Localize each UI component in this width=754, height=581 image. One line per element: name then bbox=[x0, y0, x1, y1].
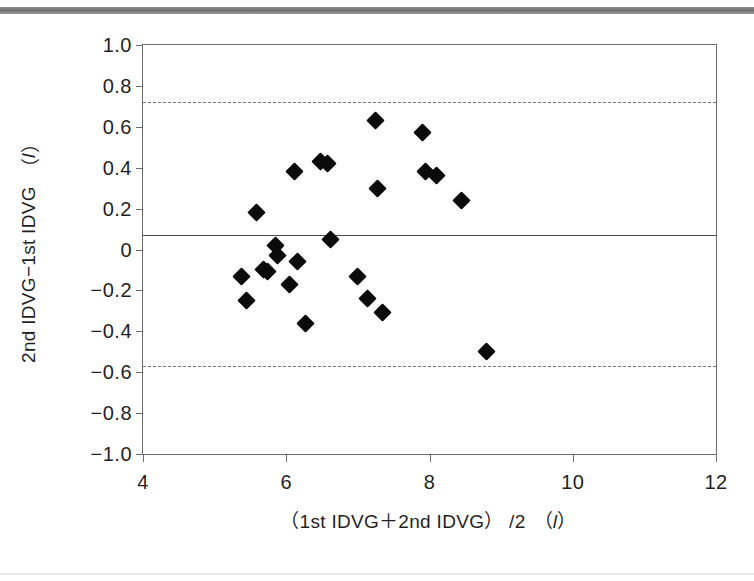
x-axis-tick bbox=[430, 454, 431, 462]
data-point bbox=[477, 343, 495, 361]
y-axis-tick-label: 0.4 bbox=[103, 156, 132, 179]
x-axis-title: （1st IDVG＋2nd IDVG） /2（l） bbox=[142, 506, 715, 533]
y-axis-tick bbox=[136, 168, 143, 169]
y-axis-tick bbox=[136, 413, 143, 414]
y-axis-title-main: 2nd IDVG−1st IDVG bbox=[18, 186, 40, 363]
y-axis-unit: l bbox=[18, 153, 40, 158]
y-axis-tick bbox=[136, 454, 143, 455]
x-axis-unit-open-paren: （ bbox=[534, 511, 553, 532]
data-point bbox=[281, 275, 299, 293]
y-axis-tick bbox=[136, 290, 143, 291]
data-point bbox=[367, 111, 385, 129]
reference-line-upper-limit-of-agreement bbox=[143, 102, 716, 103]
data-point bbox=[296, 314, 314, 332]
y-axis-tick-label: 0.6 bbox=[103, 115, 132, 138]
y-axis-tick-label: −0.4 bbox=[91, 320, 132, 343]
x-axis-tick bbox=[573, 454, 574, 462]
x-axis-unit-close-paren: ） bbox=[557, 511, 576, 532]
data-point bbox=[369, 179, 387, 197]
y-axis-tick bbox=[136, 209, 143, 210]
data-point bbox=[238, 291, 256, 309]
x-axis-tick bbox=[143, 454, 144, 462]
data-point bbox=[233, 267, 251, 285]
data-point bbox=[289, 253, 307, 271]
data-point bbox=[321, 230, 339, 248]
x-axis-tick-label: 4 bbox=[137, 471, 149, 494]
data-point bbox=[413, 124, 431, 142]
y-axis-tick-label: −0.6 bbox=[91, 361, 132, 384]
y-axis-tick-label: 0.8 bbox=[103, 74, 132, 97]
y-axis-unit-close-paren: ） bbox=[16, 134, 43, 153]
y-axis-tick-label: 0.2 bbox=[103, 197, 132, 220]
reference-line-lower-limit-of-agreement bbox=[143, 366, 716, 367]
y-axis-unit-open-paren: （ bbox=[16, 158, 43, 177]
data-point bbox=[349, 267, 367, 285]
data-point bbox=[358, 289, 376, 307]
y-axis-tick bbox=[136, 86, 143, 87]
y-axis-tick bbox=[136, 127, 143, 128]
data-point bbox=[247, 203, 265, 221]
reference-line-mean-difference bbox=[143, 235, 716, 236]
y-axis-tick-label: 0 bbox=[120, 238, 132, 261]
y-axis-tick-label: −0.2 bbox=[91, 279, 132, 302]
page-bottom-rule bbox=[0, 573, 754, 575]
y-axis-tick-label: −0.8 bbox=[91, 402, 132, 425]
x-axis-title-main: （1st IDVG＋2nd IDVG） /2 bbox=[280, 511, 525, 532]
data-point bbox=[453, 191, 471, 209]
x-axis-tick bbox=[716, 454, 717, 462]
data-point bbox=[373, 304, 391, 322]
x-axis-tick-label: 6 bbox=[280, 471, 292, 494]
y-axis-tick-label: 1.0 bbox=[103, 34, 132, 57]
x-axis-tick-label: 10 bbox=[561, 471, 584, 494]
page-top-rule bbox=[0, 7, 754, 14]
y-axis-tick bbox=[136, 45, 143, 46]
plot-area: 1.00.80.60.40.20−0.2−0.4−0.6−0.8−1.04681… bbox=[142, 44, 717, 455]
y-axis-tick-label: −1.0 bbox=[91, 443, 132, 466]
x-axis-tick-label: 12 bbox=[704, 471, 727, 494]
y-axis-tick bbox=[136, 372, 143, 373]
y-axis-tick bbox=[136, 331, 143, 332]
data-point bbox=[286, 163, 304, 181]
figure-container: 1.00.80.60.40.20−0.2−0.4−0.6−0.8−1.04681… bbox=[0, 14, 754, 559]
x-axis-tick-label: 8 bbox=[424, 471, 436, 494]
y-axis-title: 2nd IDVG−1st IDVG （l） bbox=[14, 44, 44, 453]
y-axis-tick bbox=[136, 250, 143, 251]
x-axis-tick bbox=[286, 454, 287, 462]
